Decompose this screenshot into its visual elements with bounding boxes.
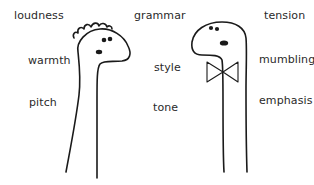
- word-emphasis: emphasis: [259, 94, 313, 107]
- word-warmth: warmth: [28, 54, 71, 67]
- left-dinosaur: [66, 23, 130, 178]
- right-dino-outline: [192, 22, 247, 172]
- word-loudness: loudness: [14, 9, 64, 22]
- word-style: style: [154, 61, 181, 74]
- right-dinosaur: [192, 22, 247, 172]
- right-dino-eye-icon: [215, 27, 219, 31]
- right-dino-mouth-icon: [220, 40, 228, 45]
- word-tone: tone: [153, 101, 178, 114]
- word-tension: tension: [264, 9, 305, 22]
- word-grammar: grammar: [134, 9, 186, 22]
- left-dino-eye-icon: [102, 38, 107, 43]
- word-mumbling: mumbling: [259, 53, 314, 66]
- left-dino-eye-icon: [108, 37, 113, 42]
- illustration: [0, 0, 314, 185]
- word-pitch: pitch: [29, 96, 57, 109]
- left-dino-mouth-icon: [96, 50, 102, 54]
- right-dino-eye-icon: [209, 26, 213, 30]
